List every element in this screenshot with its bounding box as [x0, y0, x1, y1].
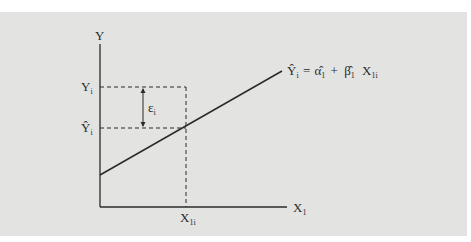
fitted-y-label: Ŷi — [81, 120, 93, 137]
regression-equation: Ŷi = α̂1 + β̂1 X1i — [287, 63, 378, 81]
error-label: εi — [148, 100, 156, 117]
error-arrow — [141, 88, 146, 127]
regression-line — [100, 71, 282, 175]
x-axis-label: X1 — [293, 200, 306, 217]
regression-diagram: Y X1 Yi Ŷi εi X1i Ŷi = α̂1 + β̂1 X1i — [0, 0, 471, 242]
observed-y-label: Yi — [81, 79, 93, 96]
error-arrow-head-bottom — [141, 122, 146, 127]
error-arrow-head-top — [141, 88, 146, 93]
y-axis-label: Y — [95, 28, 105, 43]
x-point-label: X1i — [180, 210, 196, 227]
